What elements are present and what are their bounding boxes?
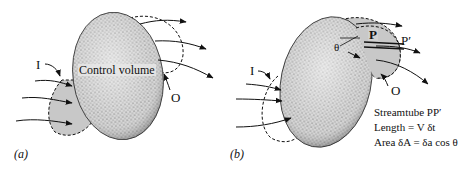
panel-a-drawing xyxy=(0,0,236,172)
panel-label-b: (b) xyxy=(230,148,244,160)
panel-a: Control volume I O (a) xyxy=(0,0,236,172)
inlet-label: I xyxy=(250,64,254,77)
inlet-label: I xyxy=(36,58,40,71)
caption-length: Length = V δt xyxy=(374,121,435,133)
point-p-label: P xyxy=(368,28,378,41)
point-p-prime-label: P′ xyxy=(401,34,411,47)
outlet-label: O xyxy=(391,84,400,97)
theta-label: θ xyxy=(334,42,339,53)
caption-streamtube: Streamtube PP′ xyxy=(374,106,442,118)
control-volume-label: Control volume xyxy=(78,64,156,76)
panel-label-a: (a) xyxy=(14,148,28,160)
caption-area: Area δA = δa cos θ xyxy=(374,136,458,148)
outlet-label: O xyxy=(171,91,180,104)
panel-b: I O P P′ θ (b) Streamtube PP′ Length = V… xyxy=(236,0,473,172)
